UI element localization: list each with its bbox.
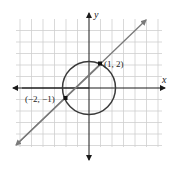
point-label-neg2-neg1: (−2, −1) bbox=[25, 94, 55, 104]
coordinate-graph: x y (1, 2) (−2, −1) bbox=[0, 0, 176, 171]
line-lower bbox=[16, 65, 100, 145]
point-neg2-neg1 bbox=[64, 96, 68, 100]
y-axis-label: y bbox=[93, 9, 99, 20]
x-axis-label: x bbox=[161, 74, 167, 85]
point-label-1-2: (1, 2) bbox=[104, 59, 124, 69]
point-1-2 bbox=[98, 62, 102, 66]
